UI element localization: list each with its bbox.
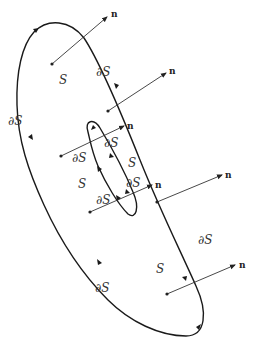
surface-label: S xyxy=(128,156,136,170)
normal-vector-2: n xyxy=(106,66,176,113)
boundary-label: ∂S xyxy=(126,176,140,190)
normal-label: n xyxy=(127,121,134,131)
boundary-label: ∂S xyxy=(8,114,22,128)
boundary-label: ∂S xyxy=(72,151,86,165)
surface-label: S xyxy=(59,73,67,87)
arrow-head-icon xyxy=(97,259,102,265)
surface-label: S xyxy=(78,177,86,191)
boundary-label: ∂S xyxy=(96,193,110,207)
boundary-label: ∂S xyxy=(104,136,118,150)
boundary-label: ∂S xyxy=(95,281,109,295)
boundary-label: ∂S xyxy=(198,233,212,247)
arrow-head-icon xyxy=(91,125,96,130)
surface-label: S xyxy=(156,262,164,276)
normal-vector-6: n xyxy=(165,260,246,296)
arrow-head-icon xyxy=(114,83,119,89)
normal-label: n xyxy=(111,9,118,19)
surface-boundary-diagram: n n n n n n S S S S xyxy=(0,0,256,342)
boundary-label: ∂S xyxy=(96,65,110,79)
normal-label: n xyxy=(155,180,162,190)
normal-vector-5: n xyxy=(155,170,232,204)
arrow-head-icon xyxy=(109,153,114,158)
arrow-head-icon xyxy=(97,166,102,172)
normal-label: n xyxy=(239,260,246,270)
surface-labels: S S S S xyxy=(59,73,164,276)
boundary-labels: ∂S ∂S ∂S ∂S ∂S ∂S ∂S ∂S xyxy=(8,65,212,295)
arrow-head-icon xyxy=(28,134,33,140)
normal-label: n xyxy=(169,66,176,76)
normal-label: n xyxy=(225,170,232,180)
arrow-head-icon xyxy=(182,276,187,281)
normal-vector-3: n xyxy=(59,121,134,158)
